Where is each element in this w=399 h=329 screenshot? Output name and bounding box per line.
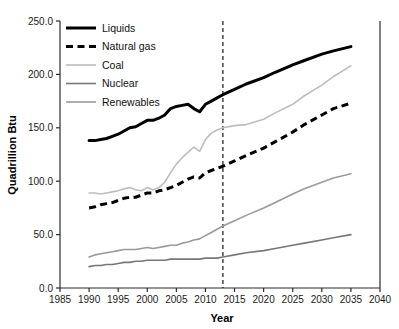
legend-label: Nuclear — [102, 77, 139, 89]
y-tick-label: 50.0 — [34, 229, 54, 240]
x-tick-label: 1985 — [49, 294, 72, 305]
y-tick-label: 200.0 — [28, 69, 53, 80]
x-tick-label: 2030 — [311, 294, 334, 305]
x-tick-label: 2015 — [223, 294, 246, 305]
x-tick-label: 2000 — [136, 294, 159, 305]
y-axis-title: Quadrillion Btu — [6, 115, 18, 194]
x-tick-label: 2020 — [253, 294, 276, 305]
chart-canvas: 0.050.0100.0150.0200.0250.0 198519901995… — [0, 0, 399, 329]
y-tick-label: 150.0 — [28, 122, 53, 133]
y-tick-label: 0.0 — [39, 283, 53, 294]
energy-consumption-chart: 0.050.0100.0150.0200.0250.0 198519901995… — [0, 0, 399, 329]
x-tick-label: 1995 — [107, 294, 130, 305]
legend-label: Coal — [102, 59, 124, 71]
y-tick-label: 250.0 — [28, 16, 53, 27]
x-tick-label: 1990 — [78, 294, 101, 305]
legend-label: Liquids — [102, 22, 135, 34]
x-tick-label: 2035 — [340, 294, 363, 305]
x-axis-title: Year — [210, 312, 234, 324]
x-tick-label: 2005 — [165, 294, 188, 305]
x-tick-label: 2025 — [282, 294, 305, 305]
x-tick-label: 2040 — [369, 294, 392, 305]
x-tick-label: 2010 — [194, 294, 217, 305]
legend-label: Natural gas — [102, 40, 156, 52]
legend-label: Renewables — [102, 96, 160, 108]
y-tick-label: 100.0 — [28, 176, 53, 187]
